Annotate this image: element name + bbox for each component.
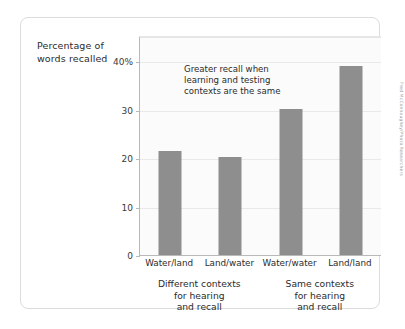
y-axis-label-line-1: Percentage of <box>37 40 147 53</box>
x-tick-label: Water/water <box>260 258 320 268</box>
x-axis-tick-labels: Water/landLand/waterWater/waterLand/land <box>139 258 381 272</box>
plot-area: 010203040% Greater recall whenlearning a… <box>139 36 381 256</box>
group-caption-line-3: and recall <box>260 301 380 313</box>
y-tick-label-30: 30 <box>122 106 133 116</box>
annotation-line-2: learning and testing <box>184 75 312 86</box>
y-tick-label-10: 10 <box>122 203 133 213</box>
y-tick-label-40: 40% <box>113 57 133 67</box>
bar[interactable] <box>339 66 362 255</box>
group-caption-line-3: and recall <box>139 301 259 313</box>
y-tick-mark-0 <box>136 256 140 257</box>
x-tick-label: Land/land <box>320 258 380 268</box>
group-caption-line-1: Different contexts <box>139 278 259 290</box>
group-caption: Different contextsfor hearingand recall <box>139 278 259 313</box>
x-tick-label: Water/land <box>139 258 199 268</box>
x-tick-label: Land/water <box>199 258 259 268</box>
image-credit: Fred McConnaughey/Photo Researchers <box>399 82 404 176</box>
group-caption-line-1: Same contexts <box>260 278 380 290</box>
group-caption: Same contextsfor hearingand recall <box>260 278 380 313</box>
bar[interactable] <box>279 109 302 255</box>
annotation-line-1: Greater recall when <box>184 64 312 75</box>
x-axis-line <box>140 255 381 256</box>
group-caption-line-2: for hearing <box>139 290 259 302</box>
chart-annotation: Greater recall whenlearning and testingc… <box>184 64 312 98</box>
chart-card: Percentage of words recalled 010203040% … <box>20 17 380 309</box>
annotation-line-3: contexts are the same <box>184 86 312 97</box>
bar[interactable] <box>219 157 242 255</box>
group-caption-line-2: for hearing <box>260 290 380 302</box>
y-tick-label-0: 0 <box>127 251 133 261</box>
bar-slot <box>321 38 381 255</box>
bar[interactable] <box>159 151 182 255</box>
y-tick-label-20: 20 <box>122 154 133 164</box>
